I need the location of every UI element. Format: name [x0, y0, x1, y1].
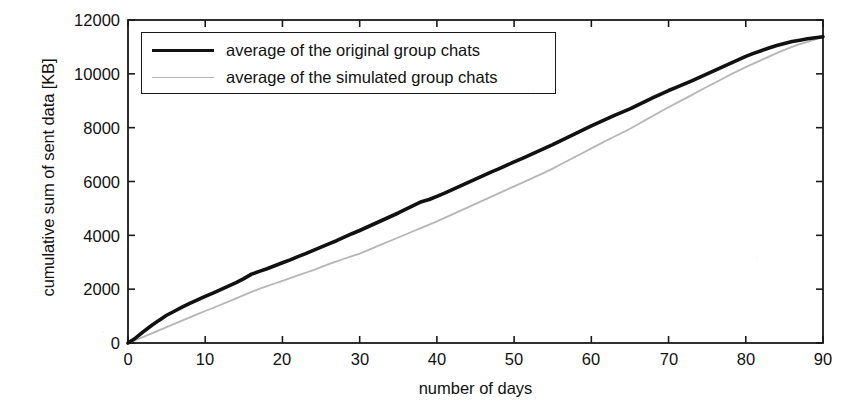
legend: average of the original group chats aver… — [141, 32, 556, 94]
legend-item-simulated: average of the simulated group chats — [152, 64, 498, 90]
legend-label-simulated: average of the simulated group chats — [226, 69, 498, 86]
legend-item-original: average of the original group chats — [152, 37, 480, 63]
legend-label-original: average of the original group chats — [226, 42, 480, 59]
chart-figure: cumulative sum of sent data [KB] 12000 1… — [0, 0, 860, 415]
legend-line-icon-original — [152, 49, 214, 52]
legend-line-icon-simulated — [152, 77, 214, 78]
